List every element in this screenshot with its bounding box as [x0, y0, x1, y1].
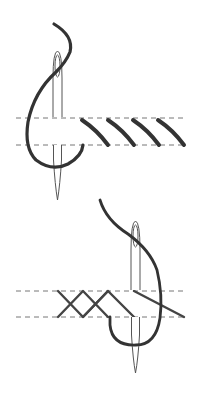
- top-panel: [16, 24, 187, 200]
- top-stitches: [82, 120, 184, 145]
- stitch-diagram: Embroidery stitch illustration: [0, 0, 197, 393]
- bottom-panel: [16, 200, 187, 373]
- stitch-3: [133, 120, 159, 145]
- stitch-4: [158, 120, 184, 145]
- bottom-zigzag-stitches: [58, 291, 184, 317]
- stitch-2: [108, 120, 134, 145]
- diagram-canvas: [0, 0, 197, 393]
- stitch-1: [82, 120, 108, 145]
